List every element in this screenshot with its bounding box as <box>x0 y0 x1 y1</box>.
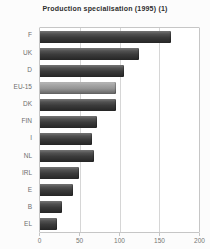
category-label-eu-15: EU-15 <box>0 79 35 96</box>
bar-fin <box>40 116 97 128</box>
tick-mark-100 <box>119 233 120 236</box>
bar-row <box>40 147 199 164</box>
bar-row <box>40 62 199 79</box>
chart: Production specialisation (1995) (1) FUK… <box>0 0 210 249</box>
bar-row <box>40 215 199 232</box>
bar-row <box>40 198 199 215</box>
bar-row <box>40 113 199 130</box>
plot-area <box>39 27 200 233</box>
bar-row <box>40 181 199 198</box>
tick-mark-50 <box>79 233 80 236</box>
category-labels: FUKDEU-15DKFININLIRLEBEL <box>0 27 35 233</box>
x-axis: 050100150200 <box>39 233 201 247</box>
tick-label-50: 50 <box>76 237 83 244</box>
tick-label-100: 100 <box>114 237 125 244</box>
bar-row <box>40 130 199 147</box>
bar-e <box>40 184 73 196</box>
category-label-e: E <box>0 182 35 199</box>
category-label-uk: UK <box>0 44 35 61</box>
category-label-nl: NL <box>0 147 35 164</box>
bar-irl <box>40 167 79 179</box>
tick-label-200: 200 <box>194 237 205 244</box>
bar-b <box>40 201 62 213</box>
bar-row <box>40 28 199 45</box>
tick-label-150: 150 <box>154 237 165 244</box>
bar-row <box>40 45 199 62</box>
bar-el <box>40 218 57 230</box>
tick-label-0: 0 <box>38 237 42 244</box>
bar-dk <box>40 99 116 111</box>
category-label-el: EL <box>0 216 35 233</box>
bar-eu-15 <box>40 82 116 94</box>
bar-f <box>40 31 171 43</box>
chart-title: Production specialisation (1995) (1) <box>0 5 210 12</box>
bar-i <box>40 133 92 145</box>
bar-uk <box>40 48 139 60</box>
bar-row <box>40 164 199 181</box>
tick-mark-150 <box>159 233 160 236</box>
bar-row <box>40 79 199 96</box>
category-label-dk: DK <box>0 96 35 113</box>
tick-mark-200 <box>199 233 200 236</box>
bar-d <box>40 65 124 77</box>
bar-nl <box>40 150 94 162</box>
category-label-i: I <box>0 130 35 147</box>
category-label-irl: IRL <box>0 164 35 181</box>
bar-rows <box>40 28 199 232</box>
tick-mark-0 <box>39 233 40 236</box>
category-label-f: F <box>0 27 35 44</box>
category-label-b: B <box>0 199 35 216</box>
bar-row <box>40 96 199 113</box>
category-label-d: D <box>0 61 35 78</box>
category-label-fin: FIN <box>0 113 35 130</box>
